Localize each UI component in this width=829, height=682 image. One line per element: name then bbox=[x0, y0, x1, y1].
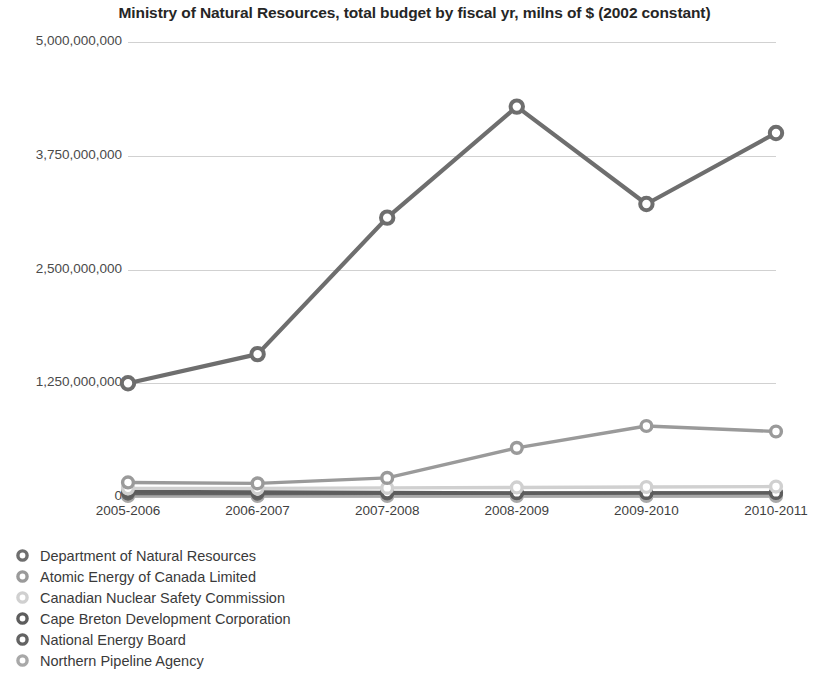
series-line bbox=[128, 492, 776, 493]
data-series bbox=[122, 100, 782, 389]
legend-item[interactable]: National Energy Board bbox=[10, 629, 530, 650]
data-point-marker[interactable] bbox=[640, 198, 652, 210]
y-axis-tick-label: 1,250,000,000 bbox=[0, 374, 122, 389]
data-point-marker[interactable] bbox=[122, 377, 134, 389]
data-point-marker[interactable] bbox=[771, 426, 782, 437]
x-axis-tick-label: 2006-2007 bbox=[225, 503, 290, 518]
data-point-marker[interactable] bbox=[511, 482, 522, 493]
x-axis-tick-label: 2008-2009 bbox=[485, 503, 550, 518]
x-axis-tick-label: 2009-2010 bbox=[614, 503, 679, 518]
legend-item[interactable]: Cape Breton Development Corporation bbox=[10, 608, 530, 629]
legend-marker-circle-icon bbox=[10, 650, 34, 671]
series-line bbox=[128, 107, 776, 384]
data-point-marker[interactable] bbox=[511, 442, 522, 453]
legend-item[interactable]: Department of Natural Resources bbox=[10, 545, 530, 566]
legend-item-label: Department of Natural Resources bbox=[34, 548, 256, 564]
data-point-marker[interactable] bbox=[251, 348, 263, 360]
legend-item[interactable]: Canadian Nuclear Safety Commission bbox=[10, 587, 530, 608]
legend-item[interactable]: Atomic Energy of Canada Limited bbox=[10, 566, 530, 587]
data-point-marker[interactable] bbox=[382, 472, 393, 483]
x-axis-labels: 2005-20062006-20072007-20082008-20092009… bbox=[128, 503, 776, 527]
chart-container: Ministry of Natural Resources, total bud… bbox=[0, 0, 829, 682]
series-line bbox=[128, 487, 776, 489]
y-axis-tick-label: 0 bbox=[0, 488, 122, 503]
x-axis-tick-label: 2005-2006 bbox=[96, 503, 161, 518]
legend-item-label: Cape Breton Development Corporation bbox=[34, 611, 291, 627]
chart-legend: Department of Natural ResourcesAtomic En… bbox=[10, 545, 530, 671]
x-axis-tick-label: 2010-2011 bbox=[744, 503, 808, 518]
legend-item-label: Atomic Energy of Canada Limited bbox=[34, 569, 256, 585]
data-point-marker[interactable] bbox=[771, 481, 782, 492]
legend-marker-circle-icon bbox=[10, 545, 34, 566]
data-point-marker[interactable] bbox=[381, 211, 393, 223]
data-point-marker[interactable] bbox=[770, 127, 782, 139]
legend-marker-circle-icon bbox=[10, 587, 34, 608]
data-point-marker[interactable] bbox=[123, 477, 134, 488]
legend-marker-circle-icon bbox=[10, 608, 34, 629]
x-axis-tick-label: 2007-2008 bbox=[355, 503, 420, 518]
data-point-marker[interactable] bbox=[641, 482, 652, 493]
legend-marker-circle-icon bbox=[10, 629, 34, 650]
series-lines bbox=[128, 42, 776, 497]
chart-title: Ministry of Natural Resources, total bud… bbox=[0, 4, 829, 22]
data-series bbox=[123, 421, 782, 489]
legend-item-label: Canadian Nuclear Safety Commission bbox=[34, 590, 285, 606]
y-axis-tick-label: 3,750,000,000 bbox=[0, 147, 122, 162]
data-point-marker[interactable] bbox=[252, 478, 263, 489]
data-point-marker[interactable] bbox=[511, 100, 523, 112]
legend-item[interactable]: Northern Pipeline Agency bbox=[10, 650, 530, 671]
y-axis-labels: 01,250,000,0002,500,000,0003,750,000,000… bbox=[0, 42, 122, 497]
y-axis-tick-label: 5,000,000,000 bbox=[0, 33, 122, 48]
y-axis-tick-label: 2,500,000,000 bbox=[0, 261, 122, 276]
plot-area bbox=[128, 42, 776, 497]
data-point-marker[interactable] bbox=[641, 421, 652, 432]
legend-item-label: National Energy Board bbox=[34, 632, 186, 648]
series-line bbox=[128, 426, 776, 483]
legend-marker-circle-icon bbox=[10, 566, 34, 587]
legend-item-label: Northern Pipeline Agency bbox=[34, 653, 204, 669]
